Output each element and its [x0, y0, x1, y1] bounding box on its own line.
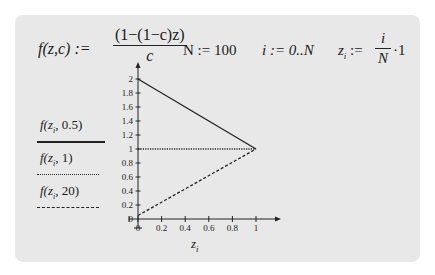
x-tick-label: 0	[136, 223, 141, 233]
x-tick-label: 0.6	[203, 223, 215, 233]
xy-plot[interactable]: 00.20.40.60.811.21.41.61.8200.20.40.60.8…	[0, 0, 435, 275]
trace-label[interactable]: f(zi, 0.5)	[40, 117, 82, 135]
trace-dashed	[138, 149, 256, 216]
y-tick-label: 1.8	[122, 88, 134, 98]
trace-style-dashed	[37, 207, 99, 208]
trace-label-fn: f(	[40, 150, 48, 165]
trace-label-fn: f(	[40, 117, 48, 132]
plot-traces	[138, 79, 256, 216]
y-tick-label: 1.4	[122, 116, 134, 126]
y-tick-label: 0.2	[122, 200, 133, 210]
trace-label[interactable]: f(zi, 20)	[40, 183, 79, 201]
trace-label-fn: f(	[40, 183, 48, 198]
y-tick-label: 0.8	[122, 158, 134, 168]
y-tick-label: 1	[129, 144, 134, 154]
x-axis-arrow	[275, 217, 281, 222]
trace-label[interactable]: f(zi, 1)	[40, 150, 73, 168]
trace-style-solid	[37, 141, 105, 143]
y-tick-label: 2	[129, 74, 134, 84]
trace-solid	[138, 79, 256, 149]
y-axis-arrow	[136, 62, 141, 68]
x-tick-label: 0.4	[180, 223, 192, 233]
y-tick-label: 0	[129, 214, 134, 224]
trace-label-param: , 0.5)	[55, 117, 82, 132]
plot-ticks: 00.20.40.60.811.21.41.61.8200.20.40.60.8…	[122, 74, 259, 233]
trace-style-dotted	[37, 174, 99, 175]
y-tick-label: 0.4	[122, 186, 134, 196]
y-tick-label: 1.6	[122, 102, 134, 112]
x-tick-label: 0.2	[156, 223, 167, 233]
y-tick-label: 1.2	[122, 130, 133, 140]
trace-label-param: , 20)	[55, 183, 79, 198]
x-tick-label: 1	[254, 223, 259, 233]
trace-label-param: , 1)	[55, 150, 72, 165]
x-tick-label: 0.8	[227, 223, 239, 233]
y-tick-label: 0.6	[122, 172, 134, 182]
x-axis-label-sub: i	[196, 244, 199, 254]
x-axis-label[interactable]: zi	[191, 236, 199, 254]
